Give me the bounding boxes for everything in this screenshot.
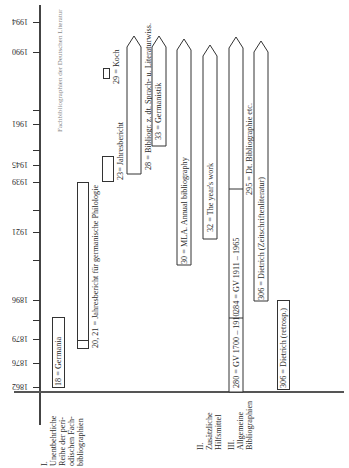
axis-tick [33,165,40,166]
axis-tick [33,339,40,340]
axis-tick [33,110,40,111]
year-label: 1990 [12,47,32,56]
entry-jahresbericht-23 [102,156,114,182]
entry-dietrich-zeit-label: 306 = Dietrich (Zeitschriftenliteratur) [257,177,266,300]
entry-years-work-label: 32 = The year's work [206,163,215,232]
section-1-label: I. Unentbehrliche Reihe der peri- odisch… [40,416,85,466]
year-label: 1945 [12,160,32,169]
time-axis [39,5,41,425]
entry-germanistik-label: 33 = Germanistik [154,83,163,140]
axis-tick [33,363,40,364]
entry-jahresbericht-germ [77,182,89,349]
divider [77,340,89,341]
axis-tick [33,320,40,321]
section-3-label: III. Allgemeine Bibliographien [227,401,254,450]
entry-jahresbericht-germ-label: 20, 21 = Jahresbericht für germanische P… [91,185,100,348]
axis-tick [33,232,40,233]
diagram-title: Fachbibliographien der Deutschen Literat… [56,9,64,132]
axis-tick [33,210,40,211]
year-label: 1879 [12,334,32,343]
entry-koch-label: 29 = Koch [112,49,121,84]
axis-tick [33,182,40,183]
axis-tick [33,150,40,151]
entry-germania-label: 18 = Germania [54,337,63,386]
axis-tick [33,52,40,53]
axis-tick [33,387,40,388]
axis-tick [33,260,40,261]
entry-gv-1700-label: 280 = GV 1700 – 1910 [232,312,241,388]
axis-tick [33,300,40,301]
year-label: 1896 [12,295,32,304]
entry-koch [103,68,110,79]
axis-tick [33,22,40,23]
entry-jahresbericht-23-label: 23= Jahresbericht [116,122,125,180]
year-label: 1876 [12,358,32,367]
entry-gv-1911-label: 284 = GV 1911 – 1965 [232,238,241,313]
year-label: 1939 [12,177,32,186]
year-label: 1862 [12,382,32,391]
entry-mla-label: 30 = MLA. Annual bibliography [180,157,189,264]
year-label: 1921 [12,227,32,236]
entry-dietrich-retro-label: 306 = Dietrich (retrosp.) [279,308,288,388]
baseline [14,391,344,393]
section-2-label: II. Zusätzliche Hilfsmittel [196,412,223,450]
entry-bibliogr-28-arrow [126,35,142,175]
axis-tick [33,124,40,125]
year-label: 1994 [12,17,32,26]
year-label: 1961 [12,119,32,128]
